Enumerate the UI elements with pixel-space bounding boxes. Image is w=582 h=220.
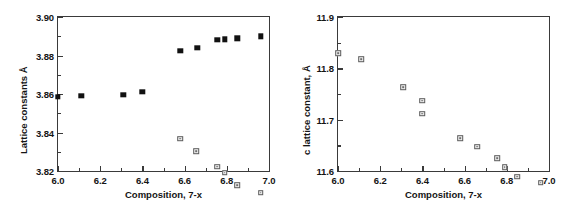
x-tick-a xyxy=(100,166,101,171)
x-minor-tick-b xyxy=(528,168,529,171)
data-point xyxy=(515,174,521,180)
data-point xyxy=(178,136,184,142)
y-tick-a xyxy=(58,56,63,57)
data-point xyxy=(121,92,126,97)
x-minor-tick-a xyxy=(248,168,249,171)
y-tick-label-a: 3.88 xyxy=(36,50,54,61)
x-tick-a xyxy=(269,166,270,171)
x-tick-label-b: 6.8 xyxy=(500,175,513,186)
y-tick-label-b: 11.8 xyxy=(316,63,334,74)
x-tick-label-b: 6.6 xyxy=(458,175,471,186)
data-point xyxy=(79,93,84,98)
x-tick-a xyxy=(185,166,186,171)
y-tick-label-b: 11.9 xyxy=(316,12,334,23)
data-point xyxy=(258,190,264,196)
y-tick-b xyxy=(338,171,343,172)
data-point xyxy=(335,50,341,56)
data-point xyxy=(235,35,240,40)
data-point xyxy=(140,89,145,94)
y-minor-tick-a xyxy=(58,75,61,76)
data-point xyxy=(420,98,426,104)
x-minor-tick-a xyxy=(206,168,207,171)
x-tick-label-b: 6.2 xyxy=(374,175,387,186)
y-minor-tick-b xyxy=(338,43,341,44)
data-point xyxy=(258,34,263,39)
y-tick-a xyxy=(58,133,63,134)
data-point xyxy=(495,156,501,162)
y-tick-label-a: 3.84 xyxy=(36,127,54,138)
data-point xyxy=(474,144,480,150)
y-minor-tick-b xyxy=(338,94,341,95)
data-point xyxy=(401,84,407,90)
plot-area-a: Composition, 7-x 6.06.26.46.66.87.03.823… xyxy=(57,16,270,172)
y-tick-b xyxy=(338,68,343,69)
x-minor-tick-b xyxy=(486,168,487,171)
x-minor-tick-a xyxy=(79,168,80,171)
x-tick-label-a: 6.2 xyxy=(94,175,107,186)
x-tick-label-a: 6.8 xyxy=(220,175,233,186)
data-point xyxy=(195,45,200,50)
y-tick-a xyxy=(58,17,63,18)
data-point xyxy=(215,37,220,42)
y-tick-label-b: 11.7 xyxy=(316,114,334,125)
x-axis-title-b: Composition, 7-x xyxy=(405,189,482,200)
x-minor-tick-b xyxy=(359,168,360,171)
y-tick-label-a: 3.86 xyxy=(36,89,54,100)
x-tick-label-a: 6.6 xyxy=(178,175,191,186)
x-tick-b xyxy=(422,166,423,171)
x-tick-label-a: 6.0 xyxy=(52,175,65,186)
x-minor-tick-a xyxy=(164,168,165,171)
data-point xyxy=(538,180,544,186)
y-tick-a xyxy=(58,171,63,172)
data-point xyxy=(358,56,364,62)
data-point xyxy=(222,170,228,176)
x-tick-label-b: 6.4 xyxy=(416,175,429,186)
x-tick-a xyxy=(142,166,143,171)
y-tick-b xyxy=(338,17,343,18)
y-tick-label-a: 3.82 xyxy=(36,166,54,177)
y-axis-title-b: c lattice constant, Å xyxy=(301,65,312,155)
chart-panel-b: c lattice constant, Å Composition, 7-x 6… xyxy=(291,0,582,220)
data-point xyxy=(235,182,241,188)
data-point xyxy=(178,48,183,53)
x-tick-label-a: 7.0 xyxy=(263,175,276,186)
data-point xyxy=(420,111,426,117)
x-tick-b xyxy=(465,166,466,171)
y-tick-label-b: 11.6 xyxy=(316,166,334,177)
x-minor-tick-b xyxy=(444,168,445,171)
y-minor-tick-b xyxy=(338,145,341,146)
x-tick-label-b: 6.0 xyxy=(332,175,345,186)
y-minor-tick-a xyxy=(58,152,61,153)
figure-container: Lattice constants Å Composition, 7-x 6.0… xyxy=(0,0,582,220)
x-tick-b xyxy=(549,166,550,171)
y-tick-label-a: 3.90 xyxy=(36,12,54,23)
chart-panel-a: Lattice constants Å Composition, 7-x 6.0… xyxy=(0,0,291,220)
y-minor-tick-a xyxy=(58,36,61,37)
x-minor-tick-a xyxy=(121,168,122,171)
x-axis-title-a: Composition, 7-x xyxy=(125,189,202,200)
x-minor-tick-b xyxy=(401,168,402,171)
data-point xyxy=(502,164,508,170)
data-point xyxy=(215,164,221,170)
y-tick-b xyxy=(338,120,343,121)
x-tick-label-b: 7.0 xyxy=(543,175,556,186)
x-tick-label-a: 6.4 xyxy=(136,175,149,186)
data-point xyxy=(222,36,227,41)
y-axis-title-a: Lattice constants Å xyxy=(18,66,29,154)
data-point xyxy=(55,94,60,99)
plot-area-b: Composition, 7-x 6.06.26.46.66.87.011.61… xyxy=(337,16,550,172)
y-minor-tick-a xyxy=(58,113,61,114)
data-point xyxy=(193,148,199,154)
data-point xyxy=(458,136,464,142)
x-tick-b xyxy=(380,166,381,171)
